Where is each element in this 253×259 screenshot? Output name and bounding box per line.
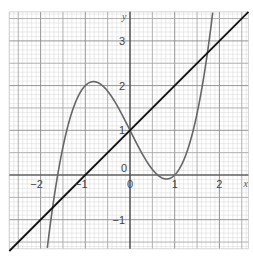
y-tick-label: 2 bbox=[119, 80, 125, 92]
graph-plot: −2−1012−10123 x y bbox=[0, 0, 253, 259]
y-tick-label: 1 bbox=[119, 124, 125, 136]
y-tick-label: 3 bbox=[119, 35, 125, 47]
x-tick-label: −2 bbox=[30, 178, 43, 190]
x-tick-label: 0 bbox=[127, 178, 133, 190]
y-tick-label: −1 bbox=[112, 214, 125, 226]
y-tick-label: 0 bbox=[121, 162, 127, 174]
x-tick-label: −1 bbox=[75, 178, 88, 190]
x-tick-label: 2 bbox=[216, 178, 222, 190]
y-axis-label: y bbox=[121, 11, 127, 22]
x-tick-label: 1 bbox=[172, 178, 178, 190]
x-axis-label: x bbox=[242, 178, 248, 189]
